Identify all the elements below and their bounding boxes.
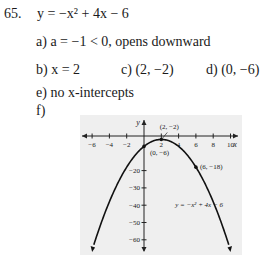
part-a-label: a) [36,34,47,49]
y-axis-label: y [135,118,140,127]
part-e-text: no x-intercepts [50,85,134,100]
x-axis-left-arrow-icon [82,134,87,139]
part-c-text: (2, −2) [135,62,173,77]
curve-right-arrow-icon [227,246,232,252]
problem-number: 65. [4,6,22,22]
part-d-label: d) [206,62,218,77]
part-a: a) a = −1 < 0, opens downward [36,34,211,50]
part-d-text: (0, −6) [221,62,259,77]
y-tick-label: −50 [129,219,140,227]
y-tick-label: −20 [129,167,140,175]
part-c: c) (2, −2) [121,62,174,78]
part-a-text: a = −1 < 0, opens downward [50,34,210,49]
data-point [194,165,198,169]
part-c-label: c) [121,62,132,77]
x-tick-label: 8 [211,141,215,149]
y-axis-down-arrow-icon [142,247,147,252]
part-d: d) (0, −6) [206,62,259,78]
parabola-graph: −6−4−2246810xy−20−30−40−50−60(2, −2)(0, … [80,115,242,255]
part-b: b) x = 2 [36,62,80,78]
curve-label: y = −x² + 4x − 6 [174,201,223,209]
part-b-text: x = 2 [51,62,80,77]
annotation-vertex: (2, −2) [160,123,180,131]
graph-svg: −6−4−2246810xy−20−30−40−50−60(2, −2)(0, … [80,115,242,255]
x-tick-label: −6 [88,141,96,149]
x-axis-arrow-icon [233,134,238,139]
y-tick-label: −30 [129,184,140,192]
x-tick-label: 2 [160,141,164,149]
curve-left-arrow-icon [91,246,96,252]
part-e: e) no x-intercepts [36,85,134,101]
annotation-y-intercept: (0, −6) [150,149,170,157]
annotation-leader [162,132,167,138]
x-tick-label: −2 [123,141,131,149]
annotation-point: (6, −18) [200,163,223,171]
x-tick-label: −4 [106,141,114,149]
y-tick-label: −40 [129,202,140,210]
part-b-label: b) [36,62,48,77]
x-tick-label: 6 [194,141,198,149]
y-axis-arrow-icon [142,120,147,125]
part-f-label: f) [36,103,45,119]
y-tick-label: −60 [129,236,140,244]
x-axis-label: x [232,140,237,149]
equation: y = −x² + 4x − 6 [37,6,129,22]
data-point [142,145,146,149]
part-e-label: e) [36,85,47,100]
